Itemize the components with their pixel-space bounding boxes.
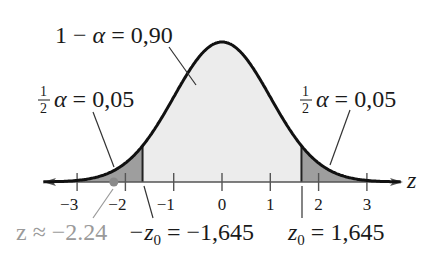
svg-text:2: 2: [40, 101, 47, 116]
tick-label: 1: [266, 195, 275, 214]
tick-label: 2: [314, 195, 323, 214]
tick-label: −3: [60, 195, 78, 214]
z-approx-label: z ≈ −2.24: [16, 219, 107, 245]
leader-line: [93, 112, 114, 167]
marked-point-dot: [109, 178, 118, 187]
pos-z0-label: z0 = 1,645: [287, 219, 384, 248]
tick-label: 3: [363, 195, 372, 214]
axis-label-z: z: [406, 167, 417, 193]
svg-text:2: 2: [302, 101, 309, 116]
svg-text:α = 0,05: α = 0,05: [54, 86, 134, 112]
tick-label: 0: [218, 195, 227, 214]
svg-text:1: 1: [302, 84, 309, 99]
normal-distribution-chart: −3−2−10123 1 − α = 0,90 1 2 α = 0,05 1 2…: [0, 0, 435, 260]
tick-label: −1: [157, 195, 175, 214]
left-tail-label: 1 2 α = 0,05: [38, 84, 134, 116]
leader-line: [330, 110, 350, 165]
leader-line: [144, 186, 153, 218]
svg-text:1: 1: [40, 84, 47, 99]
neg-z0-label: −z0 = −1,645: [128, 219, 254, 248]
tick-label: −2: [108, 195, 126, 214]
center-area-label: 1 − α = 0,90: [55, 22, 173, 48]
shaded-regions: [43, 42, 400, 182]
svg-text:α = 0,05: α = 0,05: [316, 86, 396, 112]
right-tail-label: 1 2 α = 0,05: [300, 84, 396, 116]
